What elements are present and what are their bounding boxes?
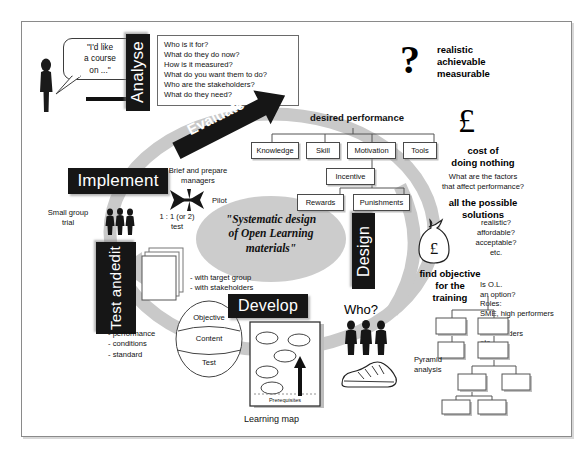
criteria-1: achievable (437, 56, 490, 68)
criteria-2: measurable (437, 68, 490, 80)
objective-part-test: Test (175, 358, 243, 368)
objective-part-content: Content (175, 334, 243, 344)
three-people-icon-develop (344, 320, 390, 356)
stage-test-and-edit[interactable]: Test and edit (96, 242, 136, 334)
centre-line-3: materials" (196, 241, 346, 255)
three-people-icon (104, 208, 140, 236)
centre-line-2: of Open Learning (196, 226, 346, 240)
design-crit-2: acceptable? (450, 238, 542, 248)
cost-heading: cost of doing nothing (428, 145, 538, 169)
tree-box-skill: Skill (306, 142, 340, 159)
obj-detail-2: - standard (108, 350, 178, 360)
cost-line-1: doing nothing (428, 157, 538, 169)
roles-0: Is O.L. (480, 280, 580, 290)
stage-analyse[interactable]: Analyse (126, 34, 150, 111)
stacked-pages-icon (142, 248, 186, 300)
centre-ellipse-text: "Systematic design of Open Learning mate… (196, 212, 346, 255)
one-to-one-1: test (146, 222, 208, 232)
tree-box-rewards: Rewards (297, 194, 344, 211)
stage-design[interactable]: Design (352, 213, 375, 289)
prerequisites-label: Prerequisites (269, 397, 301, 403)
test-edit-line-0: Test and (108, 271, 125, 329)
running-shoe-icon (338, 360, 400, 392)
design-crit-1: affordable? (450, 228, 542, 238)
performance-factors: What are the factors that affect perform… (420, 172, 546, 192)
design-criteria: realistic? affordable? acceptable? etc. (450, 218, 542, 257)
one-to-one-test-label: 1 : 1 (or 2) test (146, 212, 208, 232)
factors-0: What are the factors (420, 172, 546, 182)
learning-map: Prerequisites (250, 322, 326, 410)
small-group-1: trial (30, 218, 106, 228)
test-with-whom: - with target group - with stakeholders (190, 273, 284, 294)
tree-box-punishments: Punishments (353, 194, 410, 211)
desired-performance-heading: desired performance (310, 112, 404, 124)
small-group-0: Small group (30, 208, 106, 218)
speech-line-1: "I'd like (84, 42, 116, 53)
analyse-q-4: Who are the stakeholders? (164, 80, 292, 90)
tree-box-incentive: Incentive (326, 168, 375, 185)
brief-1: managers (150, 176, 246, 186)
speech-line-3: on ..." (84, 65, 116, 76)
who-label: Who? (344, 302, 378, 317)
pyramid-analysis-label: Pyramid analysis (414, 355, 474, 375)
pyramid-0: Pyramid (414, 355, 474, 365)
one-to-one-0: 1 : 1 (or 2) (146, 212, 208, 222)
analyse-q-1: What do they do now? (164, 50, 292, 60)
evaluate-criteria: realistic achievable measurable (437, 44, 490, 80)
analyse-q-3: What do you want them to do? (164, 70, 292, 80)
cost-line-0: cost of (428, 145, 538, 157)
design-crit-0: realistic? (450, 218, 542, 228)
objective-0: find objective (398, 268, 502, 280)
learning-map-caption: Learning map (244, 414, 299, 426)
centre-line-1: "Systematic design (196, 212, 346, 226)
analyse-q-0: Who is it for? (164, 40, 292, 50)
objective-detail-list: - performance - conditions - standard (108, 329, 178, 360)
pyramid-1: analysis (414, 365, 474, 375)
analyse-q-2: How is it measured? (164, 60, 292, 70)
small-group-trial-label: Small group trial (30, 208, 106, 228)
pilot-label: Pilot (212, 196, 227, 206)
obj-detail-1: - conditions (108, 339, 178, 349)
brief-0: Brief and prepare (150, 166, 246, 176)
with-whom-1: - with stakeholders (190, 283, 284, 293)
speech-line-2: a course (84, 53, 116, 64)
with-whom-0: - with target group (190, 273, 284, 283)
design-crit-3: etc. (450, 248, 542, 258)
question-mark-icon: ? (400, 40, 420, 80)
speech-bubble-tail (48, 70, 84, 98)
tree-box-knowledge: Knowledge (251, 142, 299, 159)
solutions-0: all the possible (420, 197, 546, 209)
svg-text:£: £ (430, 239, 439, 258)
factors-1: that affect performance? (420, 182, 546, 192)
criteria-0: realistic (437, 44, 490, 56)
tree-box-motivation: Motivation (347, 142, 396, 159)
stage-develop[interactable]: Develop (228, 294, 308, 318)
pound-sterling-icon: £ (458, 104, 475, 138)
obj-detail-0: - performance (108, 329, 178, 339)
aeroplane-icon (168, 188, 208, 212)
pyramid-analysis-tree (432, 296, 544, 412)
brief-managers-label: Brief and prepare managers (150, 166, 246, 186)
test-edit-line-1: edit (107, 246, 124, 271)
diagram-canvas: "Systematic design of Open Learning mate… (0, 0, 588, 457)
